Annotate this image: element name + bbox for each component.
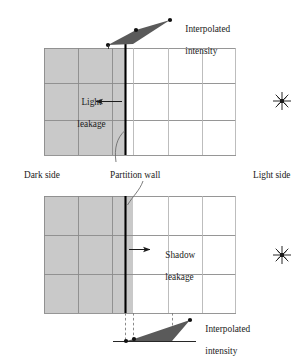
intensity-node-b-bottom (132, 337, 136, 341)
intensity-node-b-top (134, 28, 138, 32)
interpolated-line2: intensity (185, 46, 217, 56)
intensity-node-a-bottom (124, 339, 128, 343)
light-leakage-line1: Light (81, 97, 101, 107)
light-leakage-line2: leakage (77, 119, 105, 129)
interpolated-line2-bottom: intensity (205, 346, 237, 356)
intensity-node-c-bottom (188, 318, 192, 322)
shadow-leakage-label: Shadow leakage (156, 239, 195, 294)
curved-leader-line-bottom (128, 181, 144, 205)
partition-wall-label: Partition wall (110, 170, 160, 181)
interpolated-line1-bottom: Interpolated (205, 324, 250, 334)
dark-side-label: Dark side (24, 170, 60, 181)
shadow-leakage-line1: Shadow (165, 250, 195, 260)
interpolated-line1: Interpolated (185, 24, 230, 34)
sun-burst-icon-bottom (273, 246, 291, 264)
light-side-label: Light side (253, 170, 290, 181)
interpolated-intensity-label-bottom: Interpolated intensity (196, 313, 250, 359)
intensity-node-a-top (106, 43, 110, 47)
light-leakage-label: Light leakage (68, 86, 106, 141)
intensity-node-c-top (168, 18, 172, 22)
sun-burst-icon-top (273, 92, 291, 110)
figure-canvas: Interpolated intensity Light leakage Dar… (0, 0, 307, 359)
shadow-leakage-line2: leakage (165, 272, 193, 282)
interpolated-intensity-label-top: Interpolated intensity (176, 13, 230, 68)
shaded-dark-region-bottom (44, 196, 133, 313)
interpolated-intensity-triangle-top (108, 20, 170, 45)
